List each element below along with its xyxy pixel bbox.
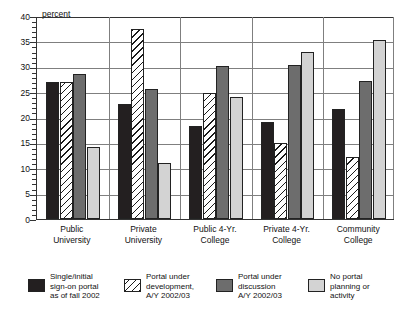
plot-area <box>36 17 394 220</box>
bar <box>189 126 202 219</box>
bar <box>60 82 73 219</box>
bar <box>274 143 287 219</box>
bar-group <box>37 17 109 219</box>
legend-item: Portal under discussion A/Y 2002/03 <box>216 272 308 301</box>
legend-item: No portal planning or activity <box>308 272 388 301</box>
bar <box>301 52 314 219</box>
bar <box>373 40 386 219</box>
legend-item: Portal under development, A/Y 2002/03 <box>124 272 216 301</box>
legend-item: Single/initial sign-on portal as of fall… <box>28 272 124 301</box>
chart-legend: Single/initial sign-on portal as of fall… <box>28 272 388 301</box>
legend-label: Single/initial sign-on portal as of fall… <box>50 272 100 301</box>
bar <box>131 29 144 219</box>
y-tick-label: 35 <box>0 38 30 47</box>
bar <box>203 93 216 219</box>
bar-chart: percent 0510152025303540 Public Universi… <box>0 0 400 314</box>
y-tick-major <box>30 220 36 221</box>
legend-swatch <box>28 279 45 292</box>
y-tick-label: 10 <box>0 165 30 174</box>
bar <box>288 65 301 219</box>
bar <box>216 66 229 219</box>
bar <box>87 147 100 219</box>
legend-swatch <box>216 279 233 292</box>
bar <box>359 81 372 219</box>
bar-group <box>323 17 395 219</box>
bar-group <box>252 17 324 219</box>
y-tick-label: 30 <box>0 63 30 72</box>
bar-group <box>109 17 181 219</box>
legend-label: No portal planning or activity <box>330 272 370 301</box>
legend-label: Portal under development, A/Y 2002/03 <box>146 272 194 301</box>
y-tick-label: 20 <box>0 114 30 123</box>
legend-swatch <box>124 279 141 292</box>
y-tick-label: 5 <box>0 190 30 199</box>
y-tick-label: 25 <box>0 89 30 98</box>
bar <box>158 163 171 219</box>
bar <box>145 89 158 219</box>
bar-group <box>180 17 252 219</box>
legend-label: Portal under discussion A/Y 2002/03 <box>238 272 282 301</box>
y-tick-label: 40 <box>0 13 30 22</box>
bar <box>332 109 345 219</box>
legend-swatch <box>308 279 325 292</box>
bar <box>73 74 86 219</box>
bar <box>346 157 359 219</box>
bar <box>46 82 59 219</box>
bar <box>118 104 131 219</box>
y-tick-label: 15 <box>0 139 30 148</box>
y-tick-label: 0 <box>0 216 30 225</box>
x-axis-category-label: Community College <box>315 224 400 246</box>
bar <box>261 122 274 219</box>
bar <box>230 97 243 219</box>
